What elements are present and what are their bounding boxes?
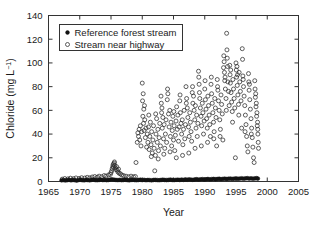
- data-point: [246, 150, 250, 154]
- data-point: [209, 82, 213, 86]
- data-point: [217, 99, 221, 103]
- legend-label: Reference forest stream: [75, 27, 177, 38]
- data-point: [243, 130, 247, 134]
- data-point: [220, 102, 224, 106]
- data-point: [147, 113, 151, 117]
- data-point: [222, 66, 226, 70]
- data-point: [224, 97, 228, 101]
- data-point: [154, 112, 158, 116]
- series-stream-near-highway: [60, 31, 260, 181]
- data-point: [213, 97, 217, 101]
- x-axis-title: Year: [163, 206, 185, 218]
- data-point: [222, 70, 226, 74]
- data-point: [180, 132, 184, 136]
- data-point: [151, 138, 155, 142]
- data-point: [247, 72, 251, 76]
- data-point: [168, 134, 172, 138]
- data-point: [213, 106, 217, 110]
- data-point: [235, 83, 239, 87]
- data-point: [186, 115, 190, 119]
- data-point: [194, 126, 198, 130]
- data-point: [228, 81, 232, 85]
- data-point: [197, 75, 201, 79]
- data-point: [135, 140, 139, 144]
- data-point: [247, 88, 251, 92]
- data-point: [217, 108, 221, 112]
- x-tick-label: 1985: [163, 186, 184, 197]
- data-point: [153, 169, 157, 173]
- data-point: [198, 106, 202, 110]
- y-tick-label: 60: [32, 105, 43, 116]
- data-point: [140, 130, 144, 134]
- data-point: [159, 94, 163, 98]
- data-point: [192, 94, 196, 98]
- data-point: [228, 73, 232, 77]
- data-point: [205, 117, 209, 121]
- data-point: [177, 139, 181, 143]
- data-point: [143, 118, 147, 122]
- data-point: [162, 152, 166, 156]
- data-point: [159, 101, 163, 105]
- data-point: [197, 91, 201, 95]
- data-point: [253, 79, 257, 83]
- data-point: [134, 161, 138, 165]
- data-point: [205, 126, 209, 130]
- data-point: [247, 82, 251, 86]
- data-point: [202, 119, 206, 123]
- data-point: [153, 153, 157, 157]
- data-point: [155, 117, 159, 121]
- data-point: [249, 117, 253, 121]
- data-point: [221, 138, 225, 142]
- data-point: [197, 82, 201, 86]
- data-point: [175, 105, 179, 109]
- legend-marker-filled-circle: [66, 31, 70, 35]
- data-point: [184, 101, 188, 105]
- data-point: [238, 89, 242, 93]
- data-point: [156, 157, 160, 161]
- data-point: [173, 133, 177, 137]
- data-point: [160, 111, 164, 115]
- data-point: [233, 106, 237, 110]
- data-point: [206, 94, 210, 98]
- data-point: [138, 138, 142, 142]
- data-point: [227, 89, 231, 93]
- data-point: [168, 150, 172, 154]
- data-point: [219, 93, 223, 97]
- data-point: [152, 124, 156, 128]
- data-point: [172, 138, 176, 142]
- data-point: [178, 111, 182, 115]
- data-point: [181, 153, 185, 157]
- y-tick-label: 100: [27, 57, 43, 68]
- data-point: [253, 87, 257, 91]
- x-tick-label: 2005: [288, 186, 309, 197]
- data-point: [198, 97, 202, 101]
- data-point: [165, 140, 169, 144]
- data-point: [188, 120, 192, 124]
- data-point: [218, 118, 222, 122]
- data-point: [141, 99, 145, 103]
- data-point: [230, 110, 234, 114]
- data-point: [166, 87, 170, 91]
- data-point: [184, 85, 188, 89]
- data-point: [212, 120, 216, 124]
- data-point: [252, 156, 256, 160]
- data-point: [178, 99, 182, 103]
- data-point: [193, 118, 197, 122]
- data-point: [188, 111, 192, 115]
- data-point: [215, 144, 219, 148]
- data-point: [200, 124, 204, 128]
- data-point: [162, 123, 166, 127]
- data-point: [210, 101, 214, 105]
- data-point: [183, 137, 187, 141]
- data-point: [256, 177, 260, 181]
- data-point: [215, 78, 219, 82]
- data-point: [204, 107, 208, 111]
- data-point: [225, 31, 229, 35]
- y-tick-label: 0: [37, 176, 42, 187]
- legend: Reference forest streamStream near highw…: [60, 25, 183, 51]
- data-point: [170, 144, 174, 148]
- data-point: [193, 146, 197, 150]
- y-tick-label: 20: [32, 152, 43, 163]
- data-point: [256, 132, 260, 136]
- data-point: [197, 69, 201, 73]
